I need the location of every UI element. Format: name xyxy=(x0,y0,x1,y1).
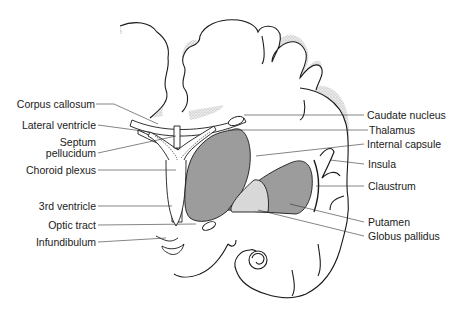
infundibulum-shape xyxy=(162,244,184,255)
label-choroid-plexus: Choroid plexus xyxy=(26,164,96,176)
label-third-ventricle: 3rd ventricle xyxy=(39,200,96,212)
label-putamen: Putamen xyxy=(368,216,410,228)
label-globus-pallidus: Globus pallidus xyxy=(368,230,440,242)
label-claustrum: Claustrum xyxy=(368,180,416,192)
label-septum-pellucidum-line2: pellucidum xyxy=(46,147,96,159)
label-optic-tract: Optic tract xyxy=(48,219,96,231)
label-caudate-nucleus: Caudate nucleus xyxy=(367,109,446,121)
label-internal-capsule: Internal capsule xyxy=(367,138,441,150)
brain-coronal-diagram: Corpus callosum Lateral ventricle Septum… xyxy=(0,0,465,315)
label-thalamus: Thalamus xyxy=(369,124,415,136)
label-infundibulum: Infundibulum xyxy=(36,236,96,248)
label-corpus-callosum: Corpus callosum xyxy=(17,98,95,110)
label-lateral-ventricle: Lateral ventricle xyxy=(22,119,96,131)
septum-pellucidum-shape xyxy=(174,126,180,148)
label-insula: Insula xyxy=(368,158,396,170)
caudate-nucleus-shape xyxy=(227,115,245,128)
left-hemisphere-cortex xyxy=(120,23,168,118)
